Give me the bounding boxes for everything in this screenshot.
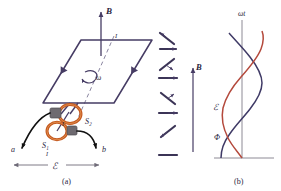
brush-s1 (67, 126, 77, 135)
slip-ring-s2-label: S₂ (85, 117, 92, 126)
caption-a: (a) (62, 177, 71, 186)
omega-arc (82, 71, 97, 83)
loop-current-arrow-right (128, 66, 138, 76)
slip-ring-s1-label: S₁ (42, 141, 49, 150)
coil-bar-0 (160, 33, 174, 44)
slip-ring-s2 (50, 105, 81, 124)
omega-t-axis-label: ωt (238, 9, 246, 18)
physics-figure: B ω I S₂ (0, 0, 281, 191)
brush-s2 (50, 108, 61, 118)
current-label-mid: I (45, 151, 49, 157)
b-label-middle: B (195, 62, 202, 72)
loop-current-arrow-left (57, 66, 67, 76)
rotating-loop (43, 40, 152, 103)
normal-arrow-4 (167, 94, 174, 99)
coil-bar-2 (160, 59, 174, 70)
panel-middle-coil-sequence: B (159, 33, 202, 155)
loop-current-label-top: I (114, 32, 118, 39)
omega-label: ω (96, 73, 101, 82)
emf-curve-label: ℰ (213, 102, 219, 112)
b-label-a: B (105, 6, 112, 16)
emf-label-backing (48, 158, 66, 171)
omega-rotation-arrow (82, 71, 97, 83)
panel-b: ωt Φ ℰ (b) (213, 9, 274, 186)
flux-curve-label: Φ (214, 133, 220, 142)
terminal-a-label: a (11, 145, 15, 154)
terminal-b-label: b (102, 145, 106, 154)
emf-curve (222, 31, 263, 158)
panel-a: B ω I S₂ (11, 6, 152, 186)
figure-container: B ω I S₂ (0, 0, 281, 191)
caption-b: (b) (234, 177, 244, 186)
normal-arrow-2 (166, 65, 173, 70)
normal-arrow-6 (161, 132, 167, 137)
lead-to-terminal-b (77, 131, 96, 148)
